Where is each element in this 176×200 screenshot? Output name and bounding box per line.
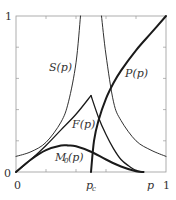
y-max-label: 1 (5, 10, 12, 23)
curve-P (91, 16, 166, 172)
curve-F (91, 96, 144, 172)
label-S: S(p) (49, 61, 72, 74)
label-P: P(p) (124, 67, 148, 80)
critical-point-label: p c (86, 179, 96, 193)
curve-S (16, 16, 81, 156)
label-M0: M 0 (p) (54, 151, 84, 165)
curves (16, 16, 166, 172)
svg-text:(p): (p) (68, 151, 84, 164)
svg-text:c: c (92, 185, 96, 193)
plot-canvas: 1 0 0 1 p p c S(p) F(p) M 0 (p) P(p) (0, 0, 176, 200)
x-min-label: 0 (14, 179, 21, 192)
label-F: F(p) (71, 118, 95, 131)
x-max-label: 1 (163, 179, 170, 192)
plot-frame (16, 16, 166, 172)
axis-ticks (16, 16, 166, 172)
x-axis-label: p (147, 179, 154, 192)
y-min-label: 0 (4, 167, 11, 180)
percolation-diagram: 1 0 0 1 p p c S(p) F(p) M 0 (p) P(p) (0, 0, 176, 200)
